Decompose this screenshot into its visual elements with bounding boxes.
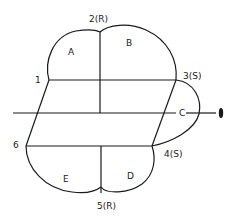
point-4-label: 4(S) — [164, 149, 182, 159]
arrow-tip-icon — [219, 108, 223, 118]
point-6-label: 6 — [13, 140, 19, 150]
region-d-label: D — [127, 171, 134, 181]
lobe-b — [100, 25, 176, 80]
lobe-d — [101, 146, 154, 192]
region-b-label: B — [126, 38, 132, 48]
region-e-label: E — [63, 174, 69, 184]
point-2-label: 2(R) — [89, 14, 108, 24]
point-1-label: 1 — [35, 75, 41, 85]
point-5-label: 5(R) — [97, 201, 116, 211]
point-3-label: 3(S) — [183, 71, 201, 81]
lobe-e — [26, 146, 101, 193]
region-a-label: A — [68, 47, 75, 57]
diagram-canvas: 2(R) 1 3(S) 6 4(S) 5(R) A B C D E — [0, 0, 238, 222]
region-c-label: C — [179, 108, 185, 118]
